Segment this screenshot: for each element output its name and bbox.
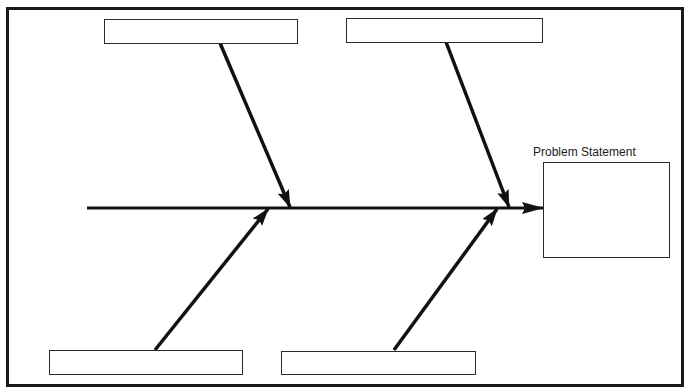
problem-statement-label: Problem Statement [533,145,636,159]
fishbone-diagram: Problem Statement [0,0,684,390]
cause-box-bottom-right[interactable] [281,351,476,375]
bone-bottom-left [155,209,268,350]
cause-box-top-left[interactable] [104,19,298,44]
cause-box-top-right[interactable] [346,18,543,43]
cause-box-bottom-left[interactable] [49,350,243,375]
bone-top-left [220,43,290,207]
bone-top-right [446,42,509,207]
bone-bottom-right [394,209,497,350]
problem-statement-box[interactable] [543,162,670,258]
